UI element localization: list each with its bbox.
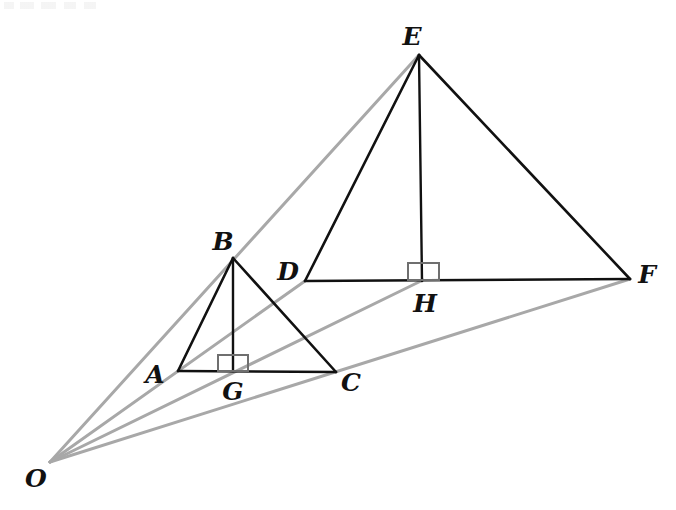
ray-O-C-F (50, 279, 630, 462)
vertex-label-G: G (222, 379, 243, 404)
segment-DF (305, 279, 630, 281)
vertex-label-D: D (277, 259, 299, 284)
vertex-label-B: B (212, 229, 233, 254)
vertex-label-A: A (145, 362, 164, 387)
segment-DE (305, 55, 419, 281)
vertex-label-O: O (25, 466, 47, 491)
geometry-figure: O A B C G D E F H (0, 0, 676, 510)
vertex-label-E: E (402, 24, 421, 49)
geometry-canvas (0, 0, 676, 510)
segment-EF (419, 55, 630, 279)
right-angle-marker-H (408, 263, 439, 280)
projection-ray-group (50, 55, 630, 462)
vertex-label-F: F (638, 262, 656, 287)
segment-AC (178, 371, 336, 372)
vertex-label-H: H (413, 291, 437, 316)
vertex-label-C: C (341, 370, 361, 395)
triangle-DEF (305, 55, 630, 281)
altitude-EH (419, 55, 422, 281)
